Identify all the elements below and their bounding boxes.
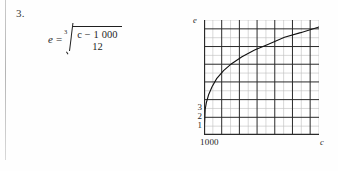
worksheet-page: 3. e = 3 c − 1 000 12 e c 3 2 1 1000 bbox=[0, 0, 338, 171]
radicand-fraction: c − 1 000 12 bbox=[73, 26, 121, 53]
grid-and-curve bbox=[204, 20, 319, 135]
cube-root-radical: 3 c − 1 000 12 bbox=[64, 26, 122, 53]
grid-lines-major bbox=[204, 20, 319, 135]
y-axis-label: e bbox=[193, 15, 197, 25]
x-origin-label: 1000 bbox=[200, 137, 219, 147]
formula-expression: e = 3 c − 1 000 12 bbox=[48, 26, 122, 53]
radical-sign-icon bbox=[66, 26, 73, 53]
x-axis-label: c bbox=[320, 137, 324, 147]
formula-left-variable: e bbox=[48, 33, 55, 45]
problem-number: 3. bbox=[16, 7, 25, 19]
plot-area bbox=[204, 20, 319, 135]
y-tick-label-1: 1 bbox=[189, 120, 202, 130]
formula-equals-sign: = bbox=[55, 33, 64, 45]
fraction-denominator: 12 bbox=[76, 40, 118, 53]
fraction-numerator: c − 1 000 bbox=[76, 28, 118, 41]
page-margin-rule bbox=[5, 0, 6, 160]
graph-figure: e c 3 2 1 1000 bbox=[186, 12, 332, 156]
